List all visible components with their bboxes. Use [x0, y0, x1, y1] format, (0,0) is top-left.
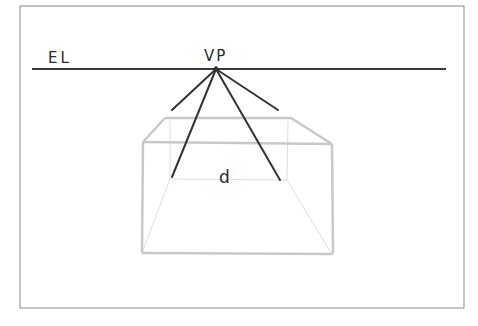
guideline-outer-left: [172, 69, 216, 110]
guideline-inner-right: [216, 69, 280, 180]
box-hidden-edges: [142, 121, 331, 253]
vanishing-point-label: VP: [204, 47, 227, 65]
box-label: d: [219, 167, 230, 187]
box-visible-edges: [142, 118, 333, 254]
eye-level-label: EL: [48, 49, 72, 67]
guideline-outer-right: [216, 69, 278, 110]
converging-lines: [172, 69, 280, 180]
guideline-inner-left: [172, 69, 216, 177]
frame-border: [20, 6, 464, 308]
perspective-sketch: EL VP d: [0, 0, 478, 326]
